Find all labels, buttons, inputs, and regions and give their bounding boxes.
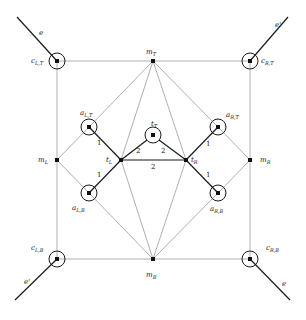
label-cRB: cR,B — [266, 244, 279, 253]
graph-diagram: cL,T cR,T cL,B cR,B mT mB mL mR aL,T aR,… — [0, 0, 306, 320]
node-cRB — [248, 257, 252, 261]
edge-mT-tL — [121, 61, 153, 160]
edge-mR-aRT — [218, 127, 250, 160]
edge-mB-tR — [153, 160, 186, 259]
weight-aRB-tR: 1 — [206, 171, 210, 179]
label-aLT: aL,T — [80, 109, 93, 118]
edge-mB-aLB — [89, 193, 153, 259]
edge-mR-aRB — [218, 160, 250, 193]
node-cLB — [55, 257, 59, 261]
node-tR — [184, 158, 188, 162]
node-cRT — [248, 59, 252, 63]
edge-mT-aRT — [153, 61, 218, 127]
node-aRT — [216, 125, 220, 129]
edge-mT-tR — [153, 61, 186, 160]
external-edge-e-top-left — [17, 17, 57, 61]
label-mR: mR — [260, 156, 271, 165]
weight-tL-tT: 2 — [136, 147, 140, 155]
node-aLT — [87, 125, 91, 129]
label-mB: mB — [146, 271, 157, 280]
label-edge-e-top-left: e — [39, 29, 43, 37]
label-aLB: aL,B — [72, 204, 85, 213]
node-mB — [151, 257, 155, 261]
label-aRT: aR,T — [226, 111, 240, 120]
label-edge-e-bottom-right: e — [282, 280, 286, 288]
weight-aRT-tR: 1 — [206, 140, 210, 148]
edge-aLT-tL — [89, 127, 121, 160]
node-cLT — [55, 59, 59, 63]
edge-aLB-tL — [89, 160, 121, 193]
node-mL — [55, 158, 59, 162]
edge-mT-aLT — [89, 61, 153, 127]
node-mT — [151, 59, 155, 63]
weight-aLT-tL: 1 — [97, 139, 101, 147]
label-mT: mT — [146, 48, 157, 57]
label-tT: tT — [151, 120, 158, 129]
weight-tL-tR: 2 — [151, 163, 155, 171]
label-cLB: cL,B — [31, 244, 44, 253]
label-edge-e-prime-bottom-left: e' — [24, 278, 30, 286]
edge-mL-aLB — [57, 160, 89, 193]
node-aLB — [87, 191, 91, 195]
label-cLT: cL,T — [31, 57, 44, 66]
label-tL: tL — [106, 156, 113, 165]
label-edge-e-prime-top-right: e' — [275, 21, 281, 29]
edge-mB-tL — [121, 160, 153, 259]
label-cRT: cR,T — [261, 57, 274, 66]
weight-tT-tR: 2 — [161, 147, 165, 155]
weight-aLB-tL: 1 — [97, 171, 101, 179]
label-mL: mL — [38, 156, 49, 165]
label-tR: tR — [191, 156, 198, 165]
node-tL — [119, 158, 123, 162]
label-aRB: aR,B — [210, 205, 224, 214]
node-mR — [248, 158, 252, 162]
edge-tL-tT — [121, 140, 147, 160]
external-edge-e-prime-bottom-left — [15, 259, 57, 300]
node-tT — [151, 133, 155, 137]
external-edge-e-prime-top-right — [250, 17, 288, 61]
edge-mB-aRB — [153, 193, 218, 259]
edge-mL-aLT — [57, 127, 89, 160]
edge-aRB-tR — [186, 160, 218, 193]
node-aRB — [216, 191, 220, 195]
